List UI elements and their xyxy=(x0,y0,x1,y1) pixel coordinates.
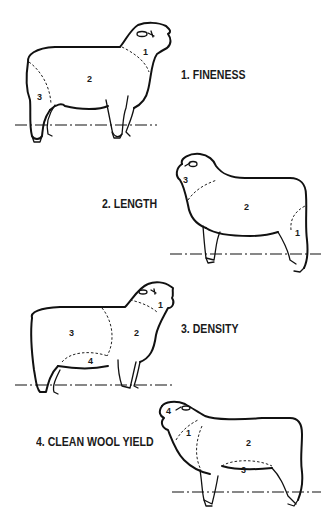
panel-density: 1 2 3 4 3. DENSITY xyxy=(0,280,331,400)
region-label-1: 1 xyxy=(186,428,191,438)
panel-length: 3 2 1 2. LENGTH xyxy=(0,150,331,280)
region-label-2: 2 xyxy=(244,202,249,212)
sheep-length-illustration: 3 2 1 xyxy=(0,150,331,280)
region-label-1: 1 xyxy=(158,300,163,310)
panel-fineness: 1 2 3 1. FINENESS xyxy=(0,0,331,150)
region-label-3: 3 xyxy=(69,328,74,338)
region-label-4: 4 xyxy=(166,406,171,416)
region-label-2: 2 xyxy=(246,438,251,448)
panel-clean-wool-yield: 4 1 2 3 4. CLEAN WOOL YIELD xyxy=(0,400,331,520)
caption-density: 3. DENSITY xyxy=(181,322,239,336)
sheep-density-illustration: 1 2 3 4 xyxy=(0,280,331,400)
region-label-4: 4 xyxy=(88,356,93,366)
region-label-1: 1 xyxy=(295,228,300,238)
region-label-2: 2 xyxy=(134,328,139,338)
region-label-1: 1 xyxy=(143,47,148,57)
caption-fineness: 1. FINENESS xyxy=(181,68,246,82)
region-label-3: 3 xyxy=(241,465,246,475)
sheep-clean-wool-yield-illustration: 4 1 2 3 xyxy=(0,400,331,520)
region-label-3: 3 xyxy=(183,175,188,185)
region-label-3: 3 xyxy=(37,92,42,102)
sheep-fineness-illustration: 1 2 3 xyxy=(0,0,331,150)
caption-clean-wool-yield: 4. CLEAN WOOL YIELD xyxy=(36,435,154,449)
region-label-2: 2 xyxy=(87,74,92,84)
caption-length: 2. LENGTH xyxy=(102,197,157,211)
